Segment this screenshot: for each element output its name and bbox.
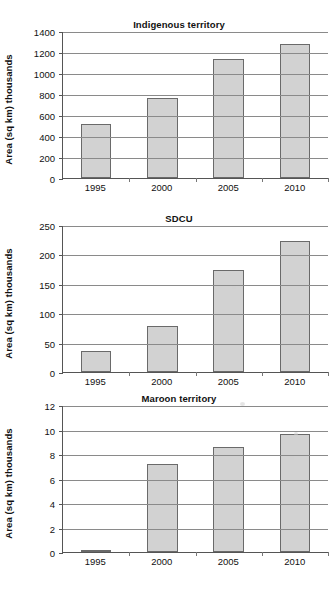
grid-line [63, 344, 328, 345]
y-tick-mark [59, 137, 63, 138]
plot-frame [62, 226, 328, 373]
y-axis-label: Area (sq km) thousands [0, 32, 16, 187]
y-tick-mark [59, 373, 63, 374]
bar[interactable] [213, 447, 243, 552]
bar[interactable] [280, 434, 310, 552]
y-tick-mark [59, 529, 63, 530]
y-axis-tick-labels: 0200400600800100012001400 [16, 32, 60, 179]
y-tick-label: 6 [50, 474, 55, 485]
y-tick-mark [59, 179, 63, 180]
y-tick-mark [59, 344, 63, 345]
plot-frame [62, 32, 328, 179]
y-tick-label: 4 [50, 499, 55, 510]
y-axis-label: Area (sq km) thousands [0, 226, 16, 381]
grid-line [63, 255, 328, 256]
chart-plot-area: Area (sq km) thousands 02004006008001000… [0, 32, 336, 192]
y-tick-label: 200 [39, 250, 55, 261]
grid-line [63, 529, 328, 530]
bar-cell [63, 226, 129, 372]
y-tick-label: 8 [50, 450, 55, 461]
bar[interactable] [213, 59, 243, 178]
bar-cell [129, 226, 195, 372]
grid-line [63, 455, 328, 456]
y-tick-label: 250 [39, 221, 55, 232]
scan-speck [290, 456, 294, 460]
bar[interactable] [147, 464, 177, 552]
x-tick-label: 2010 [262, 376, 329, 387]
y-tick-mark [59, 480, 63, 481]
grid-line [63, 74, 328, 75]
y-tick-label: 1200 [34, 48, 55, 59]
chart-indigenous-territory: Indigenous territory Area (sq km) thousa… [0, 18, 336, 192]
x-tick-label: 2000 [129, 556, 196, 567]
grid-line [63, 116, 328, 117]
y-axis-tick-labels: 024681012 [16, 406, 60, 553]
scan-speck [232, 286, 236, 289]
y-tick-mark [59, 53, 63, 54]
y-axis-tick-labels: 050100150200250 [16, 226, 60, 373]
scan-speck [294, 432, 298, 436]
y-tick-label: 800 [39, 90, 55, 101]
chart-maroon-territory: Maroon territory Area (sq km) thousands … [0, 392, 336, 566]
x-tick-label: 2005 [195, 556, 262, 567]
grid-line [63, 314, 328, 315]
x-tick-mark [328, 552, 329, 556]
bar[interactable] [81, 351, 111, 372]
y-tick-label: 0 [50, 548, 55, 559]
y-tick-mark [59, 32, 63, 33]
x-tick-label: 2005 [195, 182, 262, 193]
y-tick-mark [59, 74, 63, 75]
y-axis-label-text: Area (sq km) thousands [3, 54, 14, 164]
y-tick-mark [59, 431, 63, 432]
bar[interactable] [147, 326, 177, 372]
y-tick-mark [59, 314, 63, 315]
y-tick-label: 150 [39, 279, 55, 290]
y-tick-label: 2 [50, 523, 55, 534]
y-tick-mark [59, 116, 63, 117]
x-tick-mark [328, 178, 329, 182]
x-tick-label: 2005 [195, 376, 262, 387]
y-tick-mark [59, 504, 63, 505]
bar[interactable] [81, 124, 111, 178]
grid-line [63, 504, 328, 505]
grid-line [63, 431, 328, 432]
y-tick-label: 600 [39, 111, 55, 122]
plot-frame [62, 406, 328, 553]
y-axis-label: Area (sq km) thousands [0, 406, 16, 561]
y-tick-label: 1400 [34, 27, 55, 38]
grid-line [63, 158, 328, 159]
y-axis-label-text: Area (sq km) thousands [3, 248, 14, 358]
figure-sheet: Indigenous territory Area (sq km) thousa… [0, 0, 336, 608]
y-tick-mark [59, 406, 63, 407]
y-tick-mark [59, 455, 63, 456]
grid-line [63, 95, 328, 96]
y-tick-label: 400 [39, 132, 55, 143]
x-tick-label: 2010 [262, 182, 329, 193]
y-tick-label: 10 [44, 425, 55, 436]
y-tick-label: 12 [44, 401, 55, 412]
chart-sdcu: SDCU Area (sq km) thousands 050100150200… [0, 212, 336, 386]
x-axis-tick-labels: 1995200020052010 [62, 376, 328, 387]
scan-speck [240, 402, 245, 406]
bar[interactable] [280, 241, 310, 372]
grid-line [63, 406, 328, 407]
y-tick-mark [59, 226, 63, 227]
x-axis-tick-labels: 1995200020052010 [62, 182, 328, 193]
bar-cell [262, 226, 328, 372]
y-tick-label: 100 [39, 309, 55, 320]
y-tick-label: 200 [39, 153, 55, 164]
bar[interactable] [147, 98, 177, 178]
y-tick-label: 50 [44, 338, 55, 349]
y-tick-label: 0 [50, 174, 55, 185]
bar[interactable] [81, 550, 111, 552]
grid-line [63, 53, 328, 54]
bar-cell [196, 226, 262, 372]
y-tick-mark [59, 553, 63, 554]
x-tick-label: 2000 [129, 182, 196, 193]
grid-line [63, 480, 328, 481]
y-tick-mark [59, 285, 63, 286]
x-tick-mark [328, 372, 329, 376]
y-tick-mark [59, 95, 63, 96]
y-tick-mark [59, 255, 63, 256]
x-tick-label: 2010 [262, 556, 329, 567]
